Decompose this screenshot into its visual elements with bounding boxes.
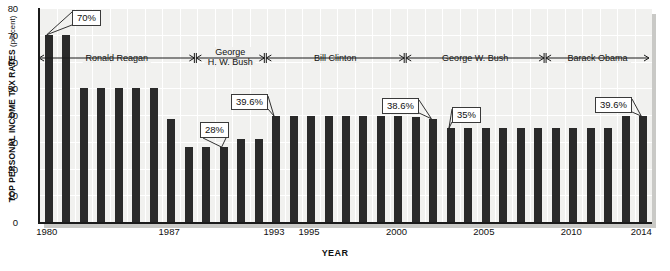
president-span-label: GeorgeH. W. Bush [205,47,256,67]
y-axis-title-text: TOP PERSONAL INCOME TAX RATES [7,49,17,202]
value-callout: 35% [452,107,481,123]
value-callout: 38.6% [382,98,419,114]
president-span-label: George W. Bush [439,53,511,63]
president-span-label-line1: George [208,47,253,57]
x-axis-tick-label: 1993 [263,226,284,237]
president-span-label: Ronald Reagan [82,53,151,63]
x-axis-tick-label: 2000 [386,226,407,237]
x-axis-title: YEAR [0,248,670,258]
value-callout: 39.6% [231,94,268,110]
president-span-label: Bill Clinton [311,53,360,63]
x-axis-tick-label: 2014 [631,226,652,237]
x-axis-tick-label: 1980 [36,226,57,237]
x-axis-tick-label: 1995 [298,226,319,237]
value-callout: 28% [200,122,229,138]
president-span-label-line2: H. W. Bush [208,57,253,67]
value-callout: 70% [72,10,101,26]
president-spans-layer: Ronald ReaganGeorgeH. W. BushBill Clinto… [38,0,650,214]
y-axis-title: TOP PERSONAL INCOME TAX RATES (percent) [7,0,17,219]
x-axis-tick-label: 1987 [159,226,180,237]
value-callout: 39.6% [595,97,632,113]
y-axis-unit-text: (percent) [8,16,17,47]
x-axis-tick-label: 2005 [473,226,494,237]
tax-rates-bar-chart: Ronald ReaganGeorgeH. W. BushBill Clinto… [0,0,670,271]
president-span-label: Barack Obama [565,53,631,63]
x-axis-tick-label: 2010 [561,226,582,237]
